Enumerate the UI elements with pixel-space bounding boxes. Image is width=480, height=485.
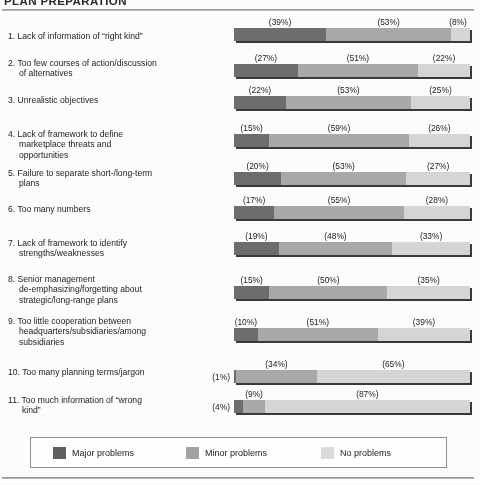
segment-value-label: (8%): [449, 17, 467, 27]
row-label-line: headquarters/subsidiaries/among: [8, 326, 223, 336]
stacked-bar[interactable]: [234, 206, 470, 219]
chart-legend: Major problemsMinor problemsNo problems: [30, 437, 447, 468]
stacked-bar-wrapper: [234, 370, 470, 383]
row-label-line: opportunities: [8, 150, 223, 160]
bar-segment-minor[interactable]: [236, 370, 316, 383]
bar-segment-none[interactable]: [392, 242, 470, 255]
bar-segment-major[interactable]: [234, 28, 326, 41]
bar-segment-minor[interactable]: [274, 206, 404, 219]
row-label: 2. Too few courses of action/discussiono…: [8, 58, 223, 79]
bar-segment-minor[interactable]: [281, 172, 406, 185]
stacked-bar[interactable]: [234, 242, 470, 255]
bar-segment-none[interactable]: [409, 134, 470, 147]
legend-swatch-major-icon: [53, 447, 66, 459]
row-label: 11. Too much information of “wrongkind”: [8, 395, 223, 416]
row-label: 9. Too little cooperation betweenheadqua…: [8, 316, 223, 347]
row-label-line: strategic/long-range plans: [8, 295, 223, 305]
row-label: 6. Too many numbers: [8, 204, 223, 214]
segment-value-label: (53%): [337, 85, 359, 95]
legend-item-minor[interactable]: Minor problems: [186, 447, 267, 459]
bar-segment-none[interactable]: [265, 400, 470, 413]
stacked-bar-wrapper: [234, 64, 470, 77]
segment-value-label: (9%): [245, 389, 263, 399]
segment-value-label: (26%): [428, 123, 450, 133]
segment-value-label: (20%): [246, 161, 268, 171]
segment-value-label: (15%): [241, 123, 263, 133]
row-label-line: marketplace threats and: [8, 139, 223, 149]
stacked-bar[interactable]: [234, 172, 470, 185]
bar-segment-minor[interactable]: [269, 286, 387, 299]
legend-item-major[interactable]: Major problems: [53, 447, 134, 459]
row-label: 8. Senior managementde-emphasizing/forge…: [8, 274, 223, 305]
stacked-bar[interactable]: [234, 64, 470, 77]
row-label: 10. Too many planning terms/jargon: [8, 367, 223, 377]
row-label-line: 11. Too much information of “wrong: [8, 395, 223, 405]
row-label: 7. Lack of framework to identifystrength…: [8, 238, 223, 259]
bar-segment-major[interactable]: [234, 400, 243, 413]
segment-value-label: (33%): [420, 231, 442, 241]
bar-segment-major[interactable]: [234, 172, 281, 185]
row-label-line: 3. Unrealistic objectives: [8, 95, 223, 105]
bar-segment-none[interactable]: [406, 172, 470, 185]
figure-title: PLAN PREPARATION: [4, 0, 127, 7]
row-label: 3. Unrealistic objectives: [8, 95, 223, 105]
bar-segment-major[interactable]: [234, 96, 286, 109]
bar-segment-none[interactable]: [317, 370, 470, 383]
legend-item-none[interactable]: No problems: [321, 447, 391, 459]
bar-segment-major[interactable]: [234, 328, 258, 341]
segment-value-label: (4%): [198, 402, 230, 412]
row-label-line: kind”: [8, 405, 223, 415]
segment-value-label: (22%): [249, 85, 271, 95]
bar-segment-minor[interactable]: [243, 400, 264, 413]
stacked-bar-wrapper: [234, 28, 470, 41]
stacked-bar[interactable]: [234, 28, 470, 41]
row-label-line: of alternatives: [8, 68, 223, 78]
bar-segment-none[interactable]: [411, 96, 470, 109]
bar-segment-major[interactable]: [234, 134, 269, 147]
bar-segment-minor[interactable]: [279, 242, 392, 255]
stacked-bar-wrapper: [234, 242, 470, 255]
segment-value-label: (28%): [426, 195, 448, 205]
stacked-bar[interactable]: [234, 370, 470, 383]
bar-segment-major[interactable]: [234, 286, 269, 299]
stacked-bar-wrapper: [234, 328, 470, 341]
bar-segment-none[interactable]: [451, 28, 470, 41]
row-label-line: 10. Too many planning terms/jargon: [8, 367, 223, 377]
bar-segment-minor[interactable]: [298, 64, 418, 77]
bar-segment-major[interactable]: [234, 206, 274, 219]
segment-value-label: (35%): [418, 275, 440, 285]
stacked-bar[interactable]: [234, 134, 470, 147]
bar-segment-major[interactable]: [234, 64, 298, 77]
bar-segment-none[interactable]: [418, 64, 470, 77]
segment-value-label: (19%): [245, 231, 267, 241]
stacked-bar[interactable]: [234, 286, 470, 299]
row-label-line: 4. Lack of framework to define: [8, 129, 223, 139]
stacked-bar[interactable]: [234, 96, 470, 109]
segment-value-label: (25%): [429, 85, 451, 95]
bar-segment-minor[interactable]: [286, 96, 411, 109]
row-label-line: 7. Lack of framework to identify: [8, 238, 223, 248]
bar-segment-none[interactable]: [378, 328, 470, 341]
segment-value-label: (51%): [347, 53, 369, 63]
segment-value-label: (27%): [427, 161, 449, 171]
stacked-bar[interactable]: [234, 328, 470, 341]
bar-segment-minor[interactable]: [326, 28, 451, 41]
legend-label: Major problems: [72, 448, 134, 458]
bar-segment-minor[interactable]: [269, 134, 408, 147]
bar-segment-none[interactable]: [404, 206, 470, 219]
row-label: 5. Failure to separate short-/long-termp…: [8, 168, 223, 189]
stacked-bar[interactable]: [234, 400, 470, 413]
row-label-line: 1. Lack of information of “right kind”: [8, 31, 223, 41]
segment-value-label: (22%): [433, 53, 455, 63]
segment-value-label: (55%): [328, 195, 350, 205]
segment-value-label: (87%): [356, 389, 378, 399]
segment-value-label: (10%): [235, 317, 257, 327]
bar-segment-major[interactable]: [234, 242, 279, 255]
bar-segment-minor[interactable]: [258, 328, 378, 341]
bar-segment-none[interactable]: [387, 286, 470, 299]
segment-value-label: (51%): [307, 317, 329, 327]
stacked-bar-wrapper: [234, 286, 470, 299]
segment-value-label: (15%): [241, 275, 263, 285]
row-label-line: 9. Too little cooperation between: [8, 316, 223, 326]
row-label: 4. Lack of framework to definemarketplac…: [8, 129, 223, 160]
